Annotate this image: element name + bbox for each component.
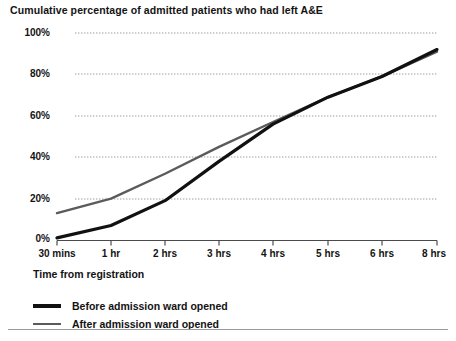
bottom-divider — [8, 329, 448, 330]
legend-item-after: After admission ward opened — [33, 315, 433, 333]
legend-swatch-before-icon — [33, 304, 61, 308]
ytick-label-40: 40% — [12, 151, 50, 162]
legend-item-before: Before admission ward opened — [33, 297, 433, 315]
xtick-label-4-hrs: 4 hrs — [261, 248, 285, 259]
chart-figure: Cumulative percentage of admitted patien… — [0, 0, 456, 341]
x-axis-label: Time from registration — [33, 268, 144, 280]
ytick-label-60: 60% — [12, 110, 50, 121]
xtick-label-2-hrs: 2 hrs — [153, 248, 177, 259]
xtick-label-8-hrs: 8 hrs — [422, 248, 446, 259]
ytick-label-0: 0% — [12, 233, 50, 244]
series-line-before — [57, 50, 437, 238]
ytick-label-80: 80% — [12, 68, 50, 79]
xtick-label-6-hrs: 6 hrs — [370, 248, 394, 259]
xtick-label-3-hrs: 3 hrs — [207, 248, 231, 259]
plot-area — [0, 0, 456, 341]
legend-label-before: Before admission ward opened — [72, 300, 228, 312]
xtick-label-1-hr: 1 hr — [102, 248, 120, 259]
ytick-label-100: 100% — [12, 27, 50, 38]
xtick-label-5-hrs: 5 hrs — [316, 248, 340, 259]
gridlines — [75, 33, 437, 199]
legend-swatch-after-icon — [33, 323, 61, 325]
x-axis — [57, 241, 437, 246]
xtick-label-30-mins: 30 mins — [38, 248, 75, 259]
chart-legend: Before admission ward opened After admis… — [33, 297, 433, 333]
ytick-label-20: 20% — [12, 193, 50, 204]
